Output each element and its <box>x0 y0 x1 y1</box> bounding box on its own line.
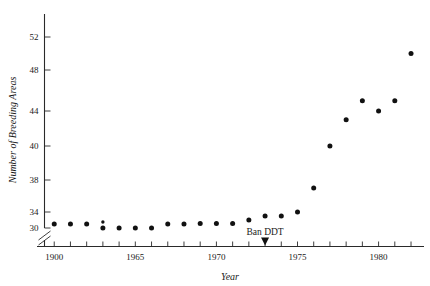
chart-annotations: Ban DDT <box>246 227 283 246</box>
data-point <box>165 222 170 227</box>
data-point <box>295 210 300 215</box>
data-point <box>311 186 316 191</box>
data-point <box>101 220 104 223</box>
y-tick-label-34: 34 <box>30 207 40 217</box>
data-point-series <box>52 51 414 231</box>
x-tick-label-1965: 1965 <box>126 252 145 262</box>
data-point <box>360 98 365 103</box>
y-tick-label-48: 48 <box>30 65 40 75</box>
data-point <box>214 221 219 226</box>
x-tick-label-1975: 1975 <box>289 252 308 262</box>
data-point <box>230 221 235 226</box>
down-arrow-icon <box>261 238 269 246</box>
y-tick-label-30: 30 <box>30 223 40 233</box>
data-point <box>198 221 203 226</box>
y-axis-break-mark <box>39 231 51 240</box>
y-tick-label-40: 40 <box>30 141 40 151</box>
data-point <box>84 222 89 227</box>
data-point <box>344 117 349 122</box>
y-axis-title: Number of Breeding Areas <box>7 77 18 185</box>
data-point <box>327 144 332 149</box>
y-tick-label-44: 44 <box>30 106 40 116</box>
y-tick-label-52: 52 <box>30 32 39 42</box>
data-point <box>149 226 154 231</box>
data-point <box>100 226 105 231</box>
y-tick-label-38: 38 <box>30 175 40 185</box>
data-point <box>181 222 186 227</box>
x-axis-tick-labels: 19001965197019751980 <box>45 252 388 262</box>
chart-container: 30343840444852 19001965197019751980 Ban … <box>0 0 430 286</box>
annotation-label-ban-ddt: Ban DDT <box>246 227 283 237</box>
data-point <box>117 226 122 231</box>
data-point <box>279 214 284 219</box>
y-axis-ticks <box>45 37 51 228</box>
x-axis-title: Year <box>221 271 239 282</box>
data-point <box>68 222 73 227</box>
data-point <box>409 51 414 56</box>
data-point <box>376 109 381 114</box>
x-tick-label-1980: 1980 <box>370 252 389 262</box>
data-point <box>392 98 397 103</box>
breeding-areas-scatter-plot: 30343840444852 19001965197019751980 Ban … <box>0 0 430 286</box>
x-axis-ticks <box>54 242 411 247</box>
axes <box>37 14 424 247</box>
x-tick-label-1970: 1970 <box>207 252 226 262</box>
data-point <box>246 218 251 223</box>
x-tick-label-1900: 1900 <box>45 252 64 262</box>
data-point <box>52 222 57 227</box>
data-point <box>263 214 268 219</box>
y-axis-tick-labels: 30343840444852 <box>30 32 40 233</box>
data-point <box>133 226 138 231</box>
